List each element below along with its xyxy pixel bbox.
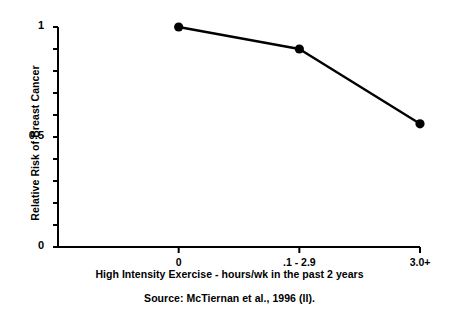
y-axis-title: Relative Risk of Breast Cancer [29, 33, 41, 253]
x-axis-title: High Intensity Exercise - hours/wk in th… [0, 268, 459, 280]
x-axis-tick-label: 3.0+ [375, 256, 459, 268]
data-point-marker [174, 22, 183, 31]
data-point-markers [174, 22, 425, 128]
y-axis-tick-label: 0.5 [4, 129, 44, 141]
axes-group [58, 27, 420, 247]
y-axis-tick-label: 0 [4, 239, 44, 251]
y-axis-tick-label: 1 [4, 19, 44, 31]
data-point-marker [415, 119, 424, 128]
data-series-line [179, 27, 420, 124]
x-axis-tick-label: .1 - 2.9 [254, 256, 344, 268]
plot-area: Relative Risk of Breast Cancer 00.51 0.1… [0, 0, 459, 260]
x-axis-tick-label: 0 [134, 256, 224, 268]
chart-figure: Relative Risk of Breast Cancer 00.51 0.1… [0, 0, 459, 322]
source-note: Source: McTiernan et al., 1996 (II). [0, 292, 459, 304]
data-point-marker [295, 44, 304, 53]
chart-canvas [0, 0, 459, 262]
